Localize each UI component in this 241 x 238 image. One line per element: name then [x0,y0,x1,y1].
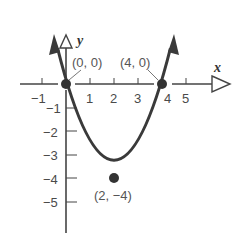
x-axis-label: x [213,60,221,75]
svg-text:1: 1 [86,91,93,106]
x-axis-arrow-icon [212,76,230,92]
svg-text:−3: −3 [43,148,58,163]
y-axis-label: y [75,33,84,48]
svg-text:−1: −1 [46,101,61,116]
curve-left-arrow-icon [49,34,60,55]
svg-text:−4: −4 [43,172,58,187]
svg-text:2: 2 [110,91,117,106]
x-axis [20,76,230,92]
label-origin: (0, 0) [72,55,102,70]
point-vertex [109,173,119,183]
svg-text:4: 4 [164,91,171,106]
svg-text:5: 5 [182,91,189,106]
y-axis-arrow-icon [60,35,72,48]
parabola-graph: x y −1 1 2 3 4 5 −1 −2 −3 −4 −5 [0,0,241,238]
y-tick-labels: −1 −2 −3 −4 −5 [43,101,61,210]
svg-text:−1: −1 [31,91,46,106]
point-origin [61,79,71,89]
point-x-intercept [157,79,167,89]
label-x-intercept: (4, 0) [120,55,150,70]
svg-text:−2: −2 [43,125,58,140]
label-vertex: (2, −4) [94,188,132,203]
curve-right-arrow-icon [168,34,179,55]
svg-text:−5: −5 [43,195,58,210]
svg-text:3: 3 [134,91,141,106]
